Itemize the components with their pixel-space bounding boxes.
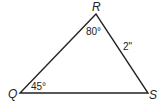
angle-label-r: 80° bbox=[86, 26, 101, 37]
angle-label-q: 45° bbox=[31, 81, 46, 92]
vertex-label-q: Q bbox=[8, 87, 17, 101]
vertex-label-s: S bbox=[149, 88, 157, 102]
triangle-diagram: R Q S 80° 45° 2" bbox=[0, 0, 163, 106]
vertex-label-r: R bbox=[92, 0, 101, 14]
side-label-rs: 2" bbox=[123, 41, 133, 52]
